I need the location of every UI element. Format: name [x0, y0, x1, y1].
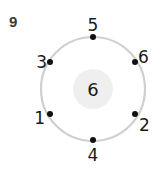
dot-bottom [90, 137, 96, 143]
dot-lower-left [47, 111, 53, 117]
dot-upper-left [47, 59, 53, 65]
dot-lower-right [132, 111, 138, 117]
label-top: 5 [88, 15, 99, 35]
label-bottom: 4 [88, 145, 99, 165]
number-circle-diagram: 6 5 6 2 4 1 3 [0, 0, 161, 170]
label-lower-left: 1 [34, 108, 45, 128]
label-upper-right: 6 [138, 47, 149, 67]
center-value: 6 [87, 79, 98, 100]
label-lower-right: 2 [139, 115, 150, 135]
puzzle-canvas: 9 6 5 6 2 4 1 3 [0, 0, 161, 170]
label-upper-left: 3 [36, 52, 47, 72]
